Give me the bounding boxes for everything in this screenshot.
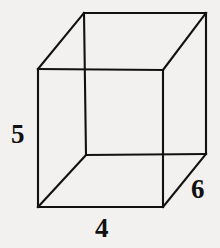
edge-connector-bottom-left [38, 155, 86, 207]
edge-connector-top-right [163, 13, 206, 70]
edge-back-bottom [86, 154, 206, 155]
edge-connector-top-left [38, 13, 84, 69]
dimension-label-height: 5 [11, 121, 25, 148]
dimension-label-width: 4 [95, 215, 109, 242]
cube-figure: 5 4 6 [0, 0, 220, 248]
edge-back-left [84, 13, 86, 155]
edge-front-top [38, 69, 163, 70]
cube-drawing [0, 0, 220, 248]
dimension-label-depth: 6 [191, 176, 205, 203]
